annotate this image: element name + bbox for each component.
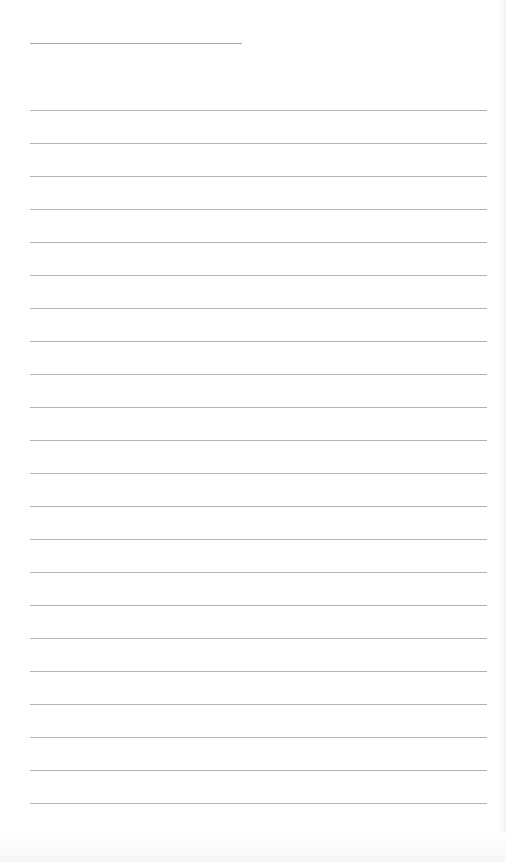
title-line [30, 43, 242, 44]
ruled-line [30, 110, 487, 111]
lined-paper-sheet [0, 0, 506, 862]
ruled-line [30, 671, 487, 672]
ruled-line [30, 473, 487, 474]
ruled-line [30, 572, 487, 573]
ruled-line [30, 770, 487, 771]
page-bottom-shadow [0, 832, 506, 862]
ruled-line [30, 242, 487, 243]
ruled-line [30, 440, 487, 441]
ruled-line [30, 143, 487, 144]
ruled-line [30, 374, 487, 375]
ruled-line [30, 275, 487, 276]
ruled-line [30, 407, 487, 408]
ruled-line [30, 506, 487, 507]
ruled-line [30, 704, 487, 705]
ruled-line [30, 308, 487, 309]
ruled-line [30, 209, 487, 210]
ruled-line [30, 605, 487, 606]
ruled-line [30, 341, 487, 342]
ruled-line [30, 638, 487, 639]
ruled-line [30, 176, 487, 177]
page-edge-shadow [498, 0, 506, 862]
ruled-line [30, 539, 487, 540]
ruled-line [30, 803, 487, 804]
ruled-line [30, 737, 487, 738]
